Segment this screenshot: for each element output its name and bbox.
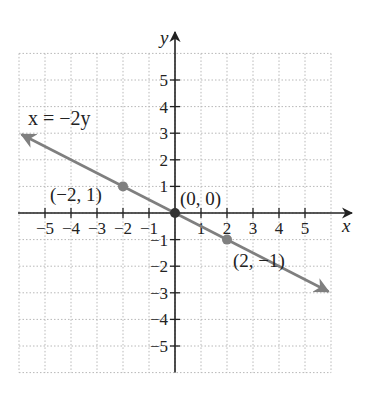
data-point bbox=[222, 235, 232, 245]
point-label: (2, −1) bbox=[233, 250, 285, 272]
y-tick-label: 2 bbox=[160, 151, 169, 170]
y-tick-label: 4 bbox=[160, 98, 169, 117]
y-tick-label: −2 bbox=[150, 257, 168, 276]
x-tick-label: −5 bbox=[36, 219, 54, 238]
y-tick-label: 3 bbox=[160, 124, 169, 143]
y-tick-label: −4 bbox=[150, 310, 169, 329]
equation-label: x = −2y bbox=[28, 107, 91, 130]
point-label: (0, 0) bbox=[180, 188, 221, 210]
y-axis-label: y bbox=[158, 27, 169, 48]
point-label: (−2, 1) bbox=[50, 184, 102, 206]
data-point bbox=[118, 181, 128, 191]
y-tick-label: −5 bbox=[150, 337, 168, 356]
x-tick-label: −2 bbox=[114, 219, 132, 238]
data-point bbox=[170, 208, 180, 218]
x-axis-label: x bbox=[341, 215, 351, 236]
y-tick-label: −1 bbox=[150, 231, 168, 250]
y-tick-label: −3 bbox=[150, 284, 168, 303]
x-tick-label: −4 bbox=[62, 219, 81, 238]
y-tick-label: 1 bbox=[160, 177, 169, 196]
x-tick-label: 4 bbox=[275, 219, 284, 238]
x-tick-label: 5 bbox=[301, 219, 310, 238]
coordinate-plane-chart: −5−4−3−2−112345−5−4−3−2−112345 (−2, 1)(0… bbox=[0, 0, 375, 397]
x-tick-label: 3 bbox=[249, 219, 258, 238]
y-tick-label: 5 bbox=[160, 71, 169, 90]
x-tick-label: −3 bbox=[88, 219, 106, 238]
